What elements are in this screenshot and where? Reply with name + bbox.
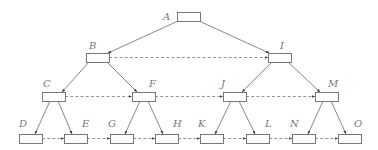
node-D: [20, 135, 43, 144]
node-O: [339, 135, 362, 144]
node-M: [316, 93, 339, 102]
node-J: [224, 93, 247, 102]
node-label-D: D: [18, 118, 27, 129]
node-label-F: F: [148, 78, 157, 89]
edge-M-O: [331, 101, 346, 134]
node-label-I: I: [279, 40, 285, 51]
edge-I-J: [242, 62, 272, 92]
node-label-A: A: [162, 11, 170, 22]
edge-C-D: [35, 101, 50, 134]
node-B: [87, 54, 110, 63]
edge-B-F: [107, 62, 137, 92]
node-label-H: H: [172, 118, 182, 129]
edge-M-N: [308, 101, 323, 134]
tree-nodes: [20, 13, 362, 144]
node-L: [247, 135, 270, 144]
tree-diagram: ABICFJMDEGHKLNO: [0, 0, 378, 150]
node-C: [43, 93, 66, 102]
edge-F-G: [125, 101, 140, 134]
node-H: [156, 135, 179, 144]
node-label-J: J: [219, 78, 226, 89]
edge-J-K: [215, 101, 231, 134]
edge-B-C: [62, 62, 89, 92]
node-label-E: E: [81, 118, 90, 129]
edge-C-E: [58, 101, 72, 134]
node-N: [293, 135, 316, 144]
node-label-M: M: [327, 78, 339, 89]
edge-F-H: [148, 101, 163, 134]
node-E: [65, 135, 88, 144]
node-F: [133, 93, 156, 102]
node-label-G: G: [108, 118, 116, 129]
edge-A-I: [199, 21, 269, 53]
node-K: [201, 135, 224, 144]
node-label-C: C: [43, 78, 51, 89]
node-label-N: N: [289, 118, 300, 129]
edge-J-L: [239, 101, 255, 134]
edge-A-B: [108, 21, 178, 53]
node-labels: ABICFJMDEGHKLNO: [18, 11, 362, 129]
node-label-L: L: [264, 118, 272, 129]
node-label-O: O: [354, 118, 362, 129]
node-label-K: K: [197, 118, 206, 129]
node-label-B: B: [88, 40, 96, 51]
node-A: [178, 13, 201, 22]
node-I: [269, 54, 292, 63]
node-G: [111, 135, 134, 144]
edge-I-M: [288, 62, 320, 92]
